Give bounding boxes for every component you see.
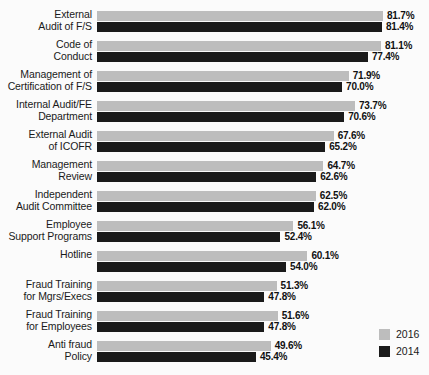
bar-value-label: 65.2% [329,141,356,152]
legend-item[interactable]: 2016 [379,327,429,344]
bar-2016 [97,41,381,51]
legend-swatch-icon [379,346,390,357]
chart-category-group: Management Review64.7%62.6% [0,161,429,185]
bar-value-label: 81.4% [386,21,413,32]
bar-value-label: 62.0% [318,201,345,212]
bar-fill [97,112,344,122]
bar-2014 [97,52,368,62]
bar-value-label: 56.1% [297,220,324,231]
bar-2016 [97,221,293,231]
chart-category-group: Code of Conduct81.1%77.4% [0,41,429,65]
chart-legend: 20162014 [379,327,429,361]
bar-2016 [97,281,277,291]
category-label: Fraud Training for Mgrs/Execs [0,279,92,302]
bar-fill [97,221,293,231]
category-label: Code of Conduct [0,39,92,62]
chart-category-group: External Audit of ICOFR67.6%65.2% [0,131,429,155]
chart-category-group: Management of Certification of F/S71.9%7… [0,71,429,95]
bar-value-label: 52.4% [284,231,311,242]
bar-fill [97,71,349,81]
chart-category-group: Internal Audit/FE Department73.7%70.6% [0,101,429,125]
bar-value-label: 62.6% [320,171,347,182]
bar-2016 [97,11,383,21]
bar-value-label: 62.5% [320,190,347,201]
bar-fill [97,101,355,111]
chart-category-group: Independent Audit Committee62.5%62.0% [0,191,429,215]
bar-2016 [97,161,323,171]
bar-fill [97,41,381,51]
bar-fill [97,281,277,291]
bar-fill [97,161,323,171]
bar-value-label: 64.7% [327,160,354,171]
bar-value-label: 60.1% [311,250,338,261]
category-label: Employee Support Programs [0,219,92,242]
bar-value-label: 70.6% [348,111,375,122]
chart-category-group: Employee Support Programs56.1%52.4% [0,221,429,245]
bar-value-label: 47.8% [268,291,295,302]
bar-2014 [97,202,314,212]
category-label: Management Review [0,159,92,182]
bar-value-label: 51.3% [281,280,308,291]
legend-label: 2016 [396,328,419,340]
bar-chart: External Audit of F/S81.7%81.4%Code of C… [0,0,429,375]
bar-fill [97,172,316,182]
bar-2014 [97,142,325,152]
bar-value-label: 71.9% [353,70,380,81]
bar-2016 [97,101,355,111]
bar-2016 [97,341,271,351]
bar-fill [97,311,278,321]
bar-value-label: 81.1% [385,40,412,51]
bar-fill [97,251,307,261]
category-label: Fraud Training for Employees [0,309,92,332]
bar-fill [97,232,280,242]
bar-value-label: 54.0% [290,261,317,272]
bar-value-label: 47.8% [268,321,295,332]
bar-2014 [97,172,316,182]
bar-fill [97,191,316,201]
bar-fill [97,11,383,21]
bar-2014 [97,82,342,92]
bar-2016 [97,131,334,141]
bar-2016 [97,191,316,201]
bar-fill [97,352,256,362]
category-label: Hotline [0,249,92,261]
bar-fill [97,82,342,92]
bar-fill [97,52,368,62]
chart-category-group: Hotline60.1%54.0% [0,251,429,275]
bar-2014 [97,232,280,242]
legend-swatch-icon [379,329,390,340]
bar-fill [97,131,334,141]
category-label: Internal Audit/FE Department [0,99,92,122]
category-label: External Audit of ICOFR [0,129,92,152]
category-label: Anti fraud Policy [0,339,92,362]
bar-fill [97,22,382,32]
chart-category-group: Fraud Training for Employees51.6%47.8% [0,311,429,335]
bar-2014 [97,322,264,332]
legend-item[interactable]: 2014 [379,344,429,361]
bar-2014 [97,292,264,302]
chart-plot-area: External Audit of F/S81.7%81.4%Code of C… [0,0,429,375]
bar-2016 [97,71,349,81]
bar-2016 [97,311,278,321]
bar-fill [97,322,264,332]
bar-fill [97,292,264,302]
chart-category-group: Anti fraud Policy49.6%45.4% [0,341,429,365]
chart-category-group: External Audit of F/S81.7%81.4% [0,11,429,35]
bar-2014 [97,22,382,32]
bar-2014 [97,262,286,272]
bar-fill [97,142,325,152]
bar-value-label: 73.7% [359,100,386,111]
bar-fill [97,262,286,272]
bar-value-label: 67.6% [338,130,365,141]
bar-2016 [97,251,307,261]
bar-value-label: 81.7% [387,10,414,21]
bar-2014 [97,352,256,362]
legend-label: 2014 [396,345,419,357]
bar-value-label: 45.4% [260,351,287,362]
bar-fill [97,202,314,212]
chart-category-group: Fraud Training for Mgrs/Execs51.3%47.8% [0,281,429,305]
bar-value-label: 70.0% [346,81,373,92]
category-label: Management of Certification of F/S [0,69,92,92]
bar-value-label: 49.6% [275,340,302,351]
bar-value-label: 51.6% [282,310,309,321]
